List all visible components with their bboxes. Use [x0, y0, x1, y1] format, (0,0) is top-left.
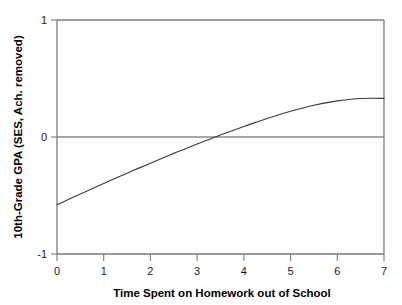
x-tick-label-3: 3 [194, 265, 200, 277]
y-tick-label-0: 0 [41, 131, 47, 143]
x-tick-label-4: 4 [241, 265, 247, 277]
chart-canvas: 1 0 -1 0 1 2 3 4 5 6 7 Time Spent on Hom… [0, 0, 402, 305]
x-tick-label-0: 0 [54, 265, 60, 277]
chart-background [0, 0, 402, 305]
y-tick-label-neg1: -1 [37, 248, 47, 260]
y-tick-label-1: 1 [41, 14, 47, 26]
x-tick-label-6: 6 [334, 265, 340, 277]
x-axis-title: Time Spent on Homework out of School [113, 287, 331, 299]
y-axis-title: 10th-Grade GPA (SES, Ach. removed) [12, 35, 24, 239]
x-tick-label-2: 2 [147, 265, 153, 277]
chart-figure: 1 0 -1 0 1 2 3 4 5 6 7 Time Spent on Hom… [0, 0, 402, 305]
x-tick-label-5: 5 [288, 265, 294, 277]
x-tick-label-1: 1 [101, 265, 107, 277]
x-tick-label-7: 7 [381, 265, 387, 277]
